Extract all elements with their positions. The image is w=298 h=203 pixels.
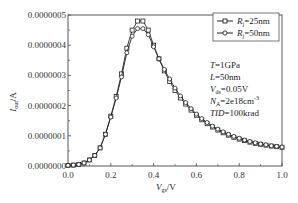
circle-marker-icon <box>227 132 231 136</box>
circle-marker-icon <box>114 96 118 100</box>
square-marker-icon <box>223 19 227 23</box>
circle-marker-icon <box>87 158 91 162</box>
circle-marker-icon <box>109 115 113 119</box>
circle-marker-icon <box>184 101 188 105</box>
y-tick-label: 0.0000000 <box>28 161 67 171</box>
x-tick-label: 0.4 <box>148 170 160 180</box>
y-tick-label: 0.0000001 <box>28 131 66 141</box>
square-marker-icon <box>136 19 140 23</box>
circle-marker-icon <box>259 142 263 146</box>
square-marker-icon <box>141 19 145 23</box>
annotation-vds: Vds=0.05V <box>210 84 249 95</box>
circle-marker-icon <box>146 33 150 37</box>
circle-marker-icon <box>253 141 257 145</box>
square-marker-icon <box>146 28 150 32</box>
circle-marker-icon <box>93 153 97 157</box>
x-tick-label: 0.8 <box>234 170 246 180</box>
circle-marker-icon <box>237 136 241 140</box>
circle-marker-icon <box>205 121 209 125</box>
circle-marker-icon <box>189 107 193 111</box>
y-axis: 0.00000000.00000010.00000020.00000030.00… <box>28 10 71 171</box>
annotation-length: L=50nm <box>209 72 241 82</box>
square-marker-icon <box>130 28 134 32</box>
annotation-doping: NA=2e18cm-3 <box>209 95 259 107</box>
circle-marker-icon <box>71 163 75 167</box>
svg-text:Rj=25nm: Rj=25nm <box>236 16 270 27</box>
circle-marker-icon <box>248 140 252 144</box>
circle-marker-icon <box>168 77 172 81</box>
circle-marker-icon <box>264 143 268 147</box>
circle-marker-icon <box>243 138 247 142</box>
y-tick-label: 0.0000003 <box>28 70 67 80</box>
circle-marker-icon <box>141 27 145 31</box>
legend: Rj=25nm Rj=50nm <box>213 13 279 41</box>
circle-marker-icon <box>162 67 166 71</box>
y-tick-label: 0.0000004 <box>28 40 67 50</box>
y-axis-label: Iout/A <box>8 92 19 113</box>
circle-marker-icon <box>77 162 81 166</box>
circle-marker-icon <box>178 94 182 98</box>
circle-marker-icon <box>232 134 236 138</box>
circle-marker-icon <box>103 132 107 136</box>
circle-marker-icon <box>125 51 129 55</box>
circle-marker-icon <box>275 144 279 148</box>
svg-text:Rj=50nm: Rj=50nm <box>236 28 270 39</box>
y-tick-label: 0.0000002 <box>28 101 66 111</box>
circle-marker-icon <box>280 145 284 149</box>
circle-marker-icon <box>66 163 70 167</box>
annotation-tid: TID=100krad <box>210 108 260 118</box>
circle-marker-icon <box>136 27 140 31</box>
y-tick-label: 0.0000005 <box>28 10 67 20</box>
circle-marker-icon <box>120 75 124 79</box>
x-tick-label: 1.0 <box>276 170 288 180</box>
circle-marker-icon <box>269 144 273 148</box>
circle-marker-icon <box>200 117 204 121</box>
x-tick-label: 0.0 <box>62 170 74 180</box>
iv-chart: 0.00000000.00000010.00000020.00000030.00… <box>0 0 298 203</box>
x-tick-label: 0.2 <box>105 170 116 180</box>
x-axis-label: Vgs/V <box>156 182 176 193</box>
circle-marker-icon <box>223 31 227 35</box>
x-tick-label: 0.6 <box>191 170 203 180</box>
circle-marker-icon <box>210 124 214 128</box>
circle-marker-icon <box>173 86 177 90</box>
circle-marker-icon <box>152 45 156 49</box>
circle-marker-icon <box>130 34 134 38</box>
parameter-annotations: T=1GPa L=50nm Vds=0.05V NA=2e18cm-3 TID=… <box>209 60 260 118</box>
annotation-temperature: T=1GPa <box>210 60 240 70</box>
circle-marker-icon <box>98 146 102 150</box>
circle-marker-icon <box>194 112 198 116</box>
circle-marker-icon <box>216 127 220 131</box>
circle-marker-icon <box>157 57 161 61</box>
circle-marker-icon <box>221 130 225 134</box>
circle-marker-icon <box>82 161 86 165</box>
